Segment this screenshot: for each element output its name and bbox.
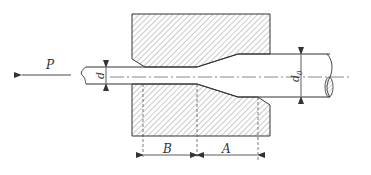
die-upper-half [132, 14, 270, 67]
label-drawn-diameter: d [94, 72, 107, 79]
wire-drawing-diagram: B A d d0 P [0, 0, 371, 175]
label-force: P [45, 58, 55, 72]
label-approach-length: A [221, 142, 231, 156]
label-bearing-length: B [162, 142, 172, 156]
die-lower-half [132, 84, 270, 136]
wire-break-left [81, 67, 86, 84]
label-initial-diameter: d0 [289, 70, 304, 82]
wire-cross-section [325, 77, 333, 97]
